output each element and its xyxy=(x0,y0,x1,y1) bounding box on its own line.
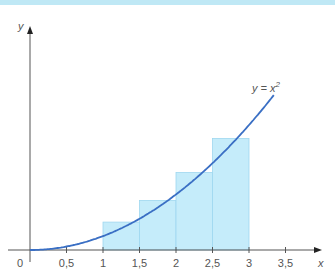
x-tick-label: 3 xyxy=(246,257,252,269)
y-axis-label: y xyxy=(17,20,25,32)
x-tick-label: 3,5 xyxy=(278,257,293,269)
riemann-bar xyxy=(213,138,250,250)
x-tick-label: 1 xyxy=(100,257,106,269)
x-tick-label: 1,5 xyxy=(132,257,147,269)
chart-container: yx00,511,522,533,5y = x2 xyxy=(0,0,335,279)
function-plot: yx00,511,522,533,5y = x2 xyxy=(0,0,335,279)
origin-label: 0 xyxy=(17,257,23,269)
curve-label-exponent: 2 xyxy=(275,80,281,89)
x-tick-label: 2,5 xyxy=(205,257,220,269)
curve-label: y = x2 xyxy=(251,80,281,94)
riemann-bar xyxy=(103,222,140,250)
x-axis-arrow-icon xyxy=(314,247,322,253)
riemann-bar xyxy=(176,173,213,251)
x-tick-label: 2 xyxy=(173,257,179,269)
x-tick-label: 0,5 xyxy=(59,257,74,269)
x-axis-label: x xyxy=(317,257,324,269)
y-axis-arrow-icon xyxy=(27,26,33,34)
